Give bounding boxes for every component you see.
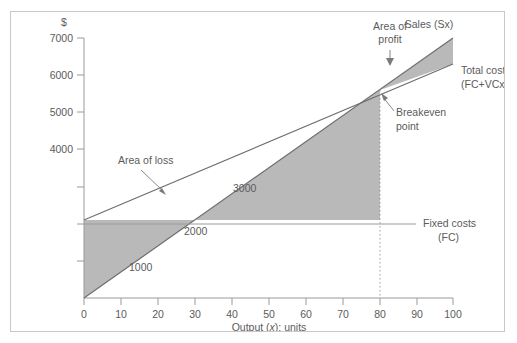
x-axis-title-pre: Output ( [232, 321, 270, 331]
breakeven-chart-figure: 7000 6000 5000 4000 $ [0, 0, 517, 343]
x-axis-title-post: ): units [275, 321, 307, 331]
x-tick-label-30: 30 [189, 308, 201, 320]
x-axis-ticks [84, 298, 453, 305]
fixed-costs-label-line1: Fixed costs [423, 217, 476, 229]
inline-label-3000: 3000 [233, 182, 257, 194]
x-tick-label-20: 20 [152, 308, 164, 320]
chart-svg: 7000 6000 5000 4000 $ [11, 12, 504, 331]
total-cost-label-line2: (FC+VCx) [461, 78, 504, 90]
x-tick-label-0: 0 [81, 308, 87, 320]
y-tick-label-7000: 7000 [50, 32, 74, 44]
area-of-loss-label: Area of loss [118, 154, 173, 166]
y-axis-unit-label: $ [61, 16, 67, 28]
breakeven-label-line1: Breakeven [396, 106, 446, 118]
inline-label-1000: 1000 [129, 261, 153, 273]
sales-line [84, 38, 453, 298]
x-axis-tick-labels: 0 10 20 30 40 50 60 70 80 90 100 [81, 308, 462, 320]
total-cost-annotation: Total cost (FC+VCx) [461, 64, 504, 90]
area-of-profit-arrowhead [386, 58, 394, 66]
fixed-costs-label-line2: (FC) [438, 231, 459, 243]
y-axis-tick-labels: 7000 6000 5000 4000 [50, 32, 74, 155]
x-tick-label-100: 100 [444, 308, 462, 320]
breakeven-annotation: Breakeven point [381, 93, 446, 132]
area-of-profit-label-line1: Area of [373, 20, 407, 32]
y-tick-label-6000: 6000 [50, 69, 74, 81]
area-of-profit-label-line2: profit [378, 33, 401, 45]
breakeven-label-line2: point [396, 120, 419, 132]
area-of-loss-leader-line [141, 170, 164, 192]
y-tick-label-5000: 5000 [50, 106, 74, 118]
y-tick-label-4000: 4000 [50, 143, 74, 155]
x-tick-label-60: 60 [300, 308, 312, 320]
data-lines [84, 38, 453, 298]
y-axis-ticks [77, 38, 84, 261]
x-tick-label-90: 90 [411, 308, 423, 320]
x-tick-label-50: 50 [263, 308, 275, 320]
x-tick-label-70: 70 [337, 308, 349, 320]
sales-series-label: Sales (Sx) [405, 18, 453, 30]
x-tick-label-10: 10 [115, 308, 127, 320]
chart-frame: 7000 6000 5000 4000 $ [10, 11, 505, 332]
total-cost-label-line1: Total cost [461, 64, 504, 76]
x-axis-title: Output (x): units [232, 321, 307, 331]
inline-label-2000: 2000 [184, 225, 208, 237]
area-of-loss-annotation: Area of loss [118, 154, 173, 195]
area-of-loss-arrowhead [159, 188, 166, 195]
breakeven-arrowhead [381, 93, 388, 101]
fixed-costs-annotation: Fixed costs (FC) [423, 217, 476, 243]
x-tick-label-40: 40 [226, 308, 238, 320]
area-of-profit-annotation: Area of profit [373, 20, 407, 66]
x-tick-label-80: 80 [374, 308, 386, 320]
